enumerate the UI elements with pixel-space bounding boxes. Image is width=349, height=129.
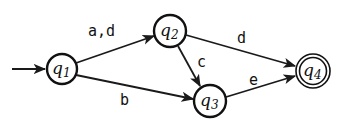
edge-q1-q3 bbox=[76, 75, 193, 99]
automaton-diagram: a,d b c d e q1 q2 q3 q4 bbox=[0, 0, 349, 129]
edge-label-q2-q4: d bbox=[237, 29, 246, 47]
edge-label-q1-q2: a,d bbox=[88, 22, 115, 40]
edge-label-q1-q3: b bbox=[120, 91, 129, 109]
state-q4-accepting: q4 bbox=[296, 54, 330, 88]
state-q2: q2 bbox=[154, 15, 186, 47]
state-q1: q1 bbox=[47, 54, 77, 84]
edge-label-q3-q4: e bbox=[249, 71, 258, 89]
edge-q3-q4 bbox=[226, 76, 295, 97]
edge-q1-q2 bbox=[76, 36, 154, 63]
state-q3: q3 bbox=[194, 85, 226, 117]
edge-label-q2-q3: c bbox=[197, 53, 206, 71]
